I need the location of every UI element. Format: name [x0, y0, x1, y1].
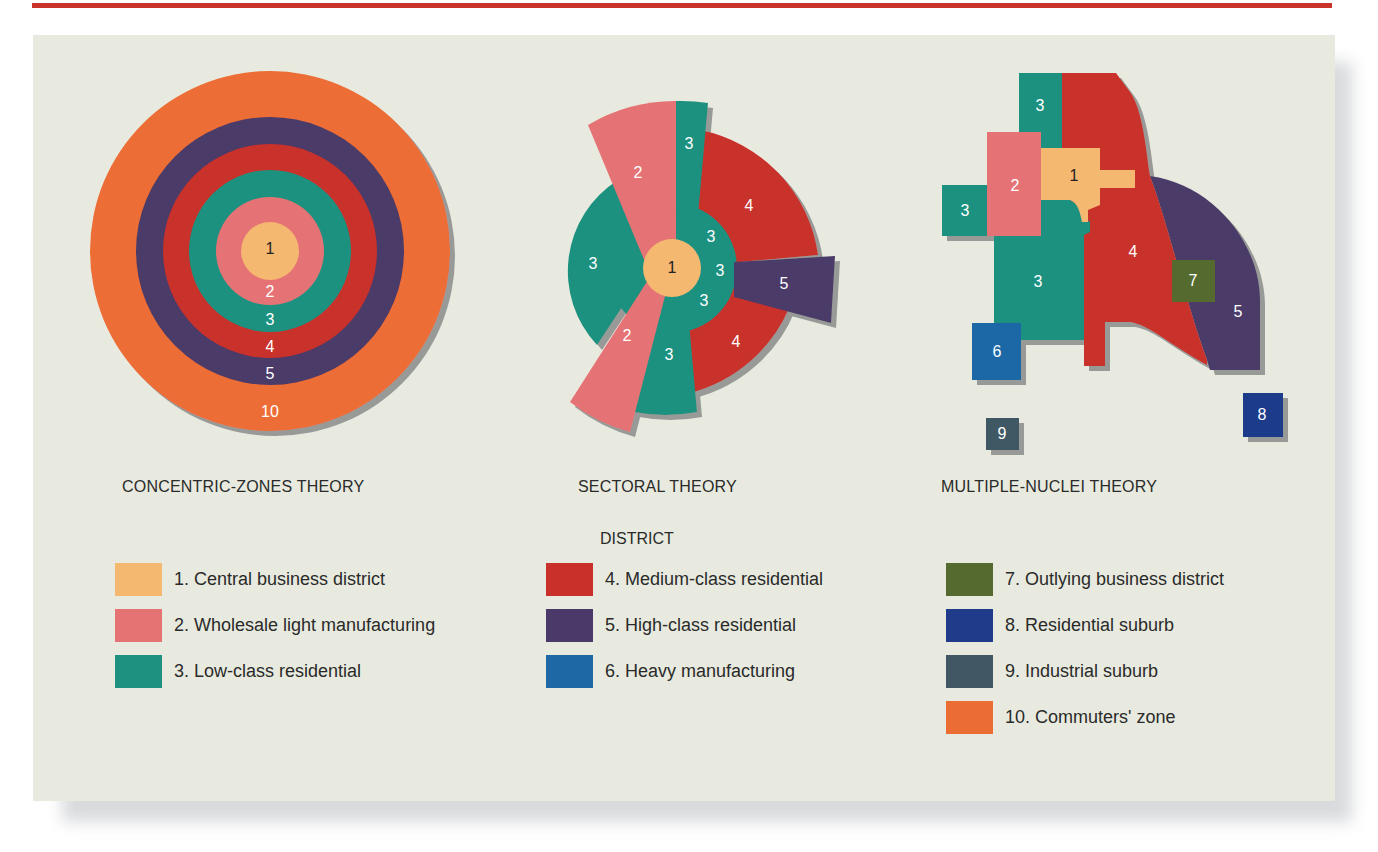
legend-column-2: 4. Medium-class residential 5. High-clas… [546, 556, 823, 694]
swatch-zone-4 [546, 563, 593, 596]
zone-label: 3 [665, 346, 674, 363]
multiple-nuclei-diagram [942, 73, 1283, 450]
legend-label: 3. Low-class residential [174, 661, 361, 682]
legend-item-industrial-suburb: 9. Industrial suburb [946, 648, 1224, 694]
zone-label: 8 [1258, 406, 1267, 423]
zone-label: 1 [1070, 167, 1079, 184]
swatch-zone-9 [946, 655, 993, 688]
legend-label: 8. Residential suburb [1005, 615, 1174, 636]
zone-label: 5 [266, 365, 275, 382]
legend-label: 2. Wholesale light manufacturing [174, 615, 435, 636]
swatch-zone-3 [115, 655, 162, 688]
zone-label: 10 [261, 403, 279, 420]
legend-label: 4. Medium-class residential [605, 569, 823, 590]
zone-label: 5 [1234, 303, 1243, 320]
zone-label: 4 [266, 338, 275, 355]
zone-label: 3 [1034, 273, 1043, 290]
swatch-zone-8 [946, 609, 993, 642]
legend-item-high-class-residential: 5. High-class residential [546, 602, 823, 648]
zone-label: 4 [745, 197, 754, 214]
swatch-zone-7 [946, 563, 993, 596]
multiple-nuclei-title: MULTIPLE-NUCLEI THEORY [941, 478, 1157, 496]
legend-column-3: 7. Outlying business district 8. Residen… [946, 556, 1224, 740]
zone-label: 3 [700, 292, 709, 309]
legend-item-medium-class-residential: 4. Medium-class residential [546, 556, 823, 602]
legend-item-wholesale-light-manufacturing: 2. Wholesale light manufacturing [115, 602, 435, 648]
legend-item-residential-suburb: 8. Residential suburb [946, 602, 1224, 648]
zone-label: 3 [685, 135, 694, 152]
legend-label: 5. High-class residential [605, 615, 796, 636]
zone-label: 2 [623, 327, 632, 344]
legend-label: 6. Heavy manufacturing [605, 661, 795, 682]
concentric-zones-title: CONCENTRIC-ZONES THEORY [122, 478, 364, 496]
zone-label: 3 [707, 228, 716, 245]
zone-label: 1 [668, 259, 677, 276]
zone-label: 3 [961, 202, 970, 219]
swatch-zone-10 [946, 701, 993, 734]
zone-label: 3 [266, 311, 275, 328]
legend-item-central-business-district: 1. Central business district [115, 556, 435, 602]
legend-item-heavy-manufacturing: 6. Heavy manufacturing [546, 648, 823, 694]
sectoral-diagram [568, 101, 835, 432]
zone-label: 7 [1189, 272, 1198, 289]
zone-label: 2 [634, 164, 643, 181]
swatch-zone-5 [546, 609, 593, 642]
legend-label: 9. Industrial suburb [1005, 661, 1158, 682]
legend-item-commuters-zone: 10. Commuters' zone [946, 694, 1224, 740]
legend-label: 1. Central business district [174, 569, 385, 590]
legend-item-outlying-business-district: 7. Outlying business district [946, 556, 1224, 602]
swatch-zone-2 [115, 609, 162, 642]
sectoral-title: SECTORAL THEORY [578, 478, 737, 496]
swatch-zone-6 [546, 655, 593, 688]
zone-label: 5 [780, 275, 789, 292]
legend-label: 10. Commuters' zone [1005, 707, 1176, 728]
swatch-zone-1 [115, 563, 162, 596]
zone-label: 2 [266, 283, 275, 300]
zone-label: 3 [716, 262, 725, 279]
zone-label: 9 [998, 425, 1007, 442]
legend-label: 7. Outlying business district [1005, 569, 1224, 590]
zone-label: 3 [589, 255, 598, 272]
zone-label: 4 [732, 333, 741, 350]
zone-label: 4 [1129, 243, 1138, 260]
zone-label: 1 [266, 240, 275, 257]
zone-label: 6 [993, 343, 1002, 360]
legend-title: DISTRICT [600, 530, 674, 548]
legend-item-low-class-residential: 3. Low-class residential [115, 648, 435, 694]
zone-label: 3 [1036, 97, 1045, 114]
zone-label: 2 [1011, 177, 1020, 194]
legend-column-1: 1. Central business district 2. Wholesal… [115, 556, 435, 694]
